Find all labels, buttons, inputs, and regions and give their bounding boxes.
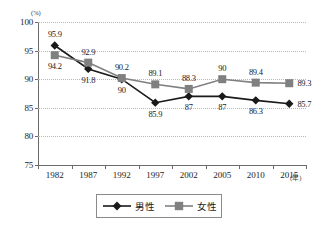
diamond-marker (285, 100, 293, 108)
point-label-女性-2005: 90 (218, 63, 226, 73)
square-marker (118, 74, 126, 82)
square-marker (218, 75, 226, 83)
diamond-marker (218, 92, 226, 100)
point-label-男性-2005: 87 (218, 102, 226, 112)
line-chart: (%) 7580859095100 1982198719921997200220… (0, 0, 318, 226)
point-label-女性-1982: 94.2 (48, 61, 62, 71)
legend-item-女性[interactable]: 女性 (164, 199, 217, 213)
square-marker (285, 79, 293, 87)
point-label-女性-2015: 89.3 (297, 78, 311, 88)
point-label-男性-1987: 91.8 (81, 75, 95, 85)
point-label-女性-2010: 89.4 (249, 67, 263, 77)
square-marker (51, 51, 59, 59)
square-marker (252, 79, 260, 87)
point-label-女性-1987: 92.9 (81, 47, 95, 57)
legend: 男性女性 (96, 194, 222, 218)
point-label-男性-2002: 87 (185, 102, 193, 112)
square-marker (84, 59, 92, 67)
legend-label: 男性 (135, 199, 155, 213)
legend-label: 女性 (197, 199, 217, 213)
point-label-男性-1992: 90 (118, 85, 126, 95)
point-label-女性-1992: 90.2 (115, 62, 129, 72)
square-marker (185, 85, 193, 93)
diamond-marker (185, 92, 193, 100)
legend-item-男性[interactable]: 男性 (102, 199, 155, 213)
square-marker (164, 200, 194, 212)
point-label-女性-1997: 89.1 (148, 68, 162, 78)
diamond-marker (252, 96, 260, 104)
diamond-marker (102, 200, 132, 212)
square-marker (151, 80, 159, 88)
point-label-男性-2010: 86.3 (249, 106, 263, 116)
point-label-男性-1997: 85.9 (148, 109, 162, 119)
point-label-男性-1982: 95.9 (48, 29, 62, 39)
point-label-男性-2015: 85.7 (297, 99, 311, 109)
point-label-女性-2002: 88.3 (182, 73, 196, 83)
